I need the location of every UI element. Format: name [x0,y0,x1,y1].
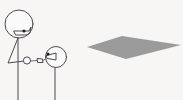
scene-canvas [0,0,183,100]
tall-figure-hand [23,57,30,64]
tall-figure-eye [22,29,25,32]
short-figure-arm [31,61,37,62]
drawing-surface [0,0,183,100]
short-figure-eye [47,53,50,56]
